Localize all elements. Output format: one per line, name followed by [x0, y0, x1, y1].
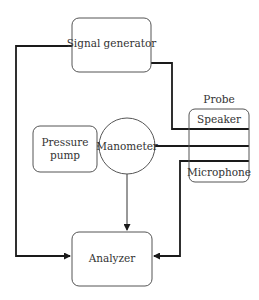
signal-generator-node: Signal generator — [67, 18, 158, 72]
manometer-node: Manometer — [96, 118, 159, 174]
signal-generator-label: Signal generator — [67, 37, 158, 49]
pressure-pump-label-line1: Pressure — [41, 136, 88, 148]
manometer-label: Manometer — [96, 140, 159, 152]
probe-microphone-label: Microphone — [187, 166, 251, 178]
measurement-block-diagram: Signal generator Probe Speaker Microphon… — [0, 0, 259, 300]
pressure-pump-node: Pressure pump — [33, 126, 97, 172]
probe-title: Probe — [203, 93, 234, 105]
probe-node: Probe Speaker Microphone — [187, 93, 251, 182]
analyzer-label: Analyzer — [88, 252, 137, 264]
probe-speaker-label: Speaker — [197, 113, 242, 125]
pressure-pump-label-line2: pump — [50, 149, 80, 161]
analyzer-node: Analyzer — [72, 232, 152, 286]
